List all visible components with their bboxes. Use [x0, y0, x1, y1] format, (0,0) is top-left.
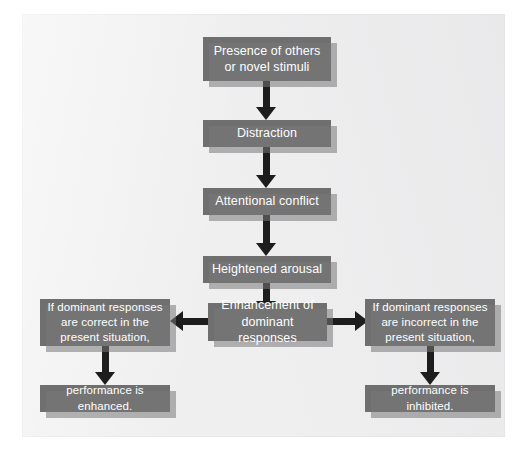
- node-heightened-arousal-label: Heightened arousal: [212, 261, 322, 278]
- node-presence-line2: or novel stimuli: [225, 59, 310, 76]
- edge-conflict-to-arousal-arrowhead: [256, 243, 276, 256]
- node-right-outcome-label: performance is inhibited.: [371, 383, 489, 413]
- node-left-condition-line2: are correct in the: [61, 315, 149, 330]
- node-distraction-label: Distraction: [237, 125, 297, 142]
- node-attentional-conflict-label: Attentional conflict: [215, 193, 318, 210]
- node-presence-line1: Presence of others: [214, 43, 321, 60]
- edge-distraction-to-conflict-arrowhead: [256, 175, 276, 188]
- node-left-condition-correct: If dominant responses are correct in the…: [40, 299, 170, 346]
- node-left-condition-line1: If dominant responses: [47, 300, 162, 315]
- node-right-condition-line1: If dominant responses: [372, 300, 487, 315]
- figure-canvas: Presence of others or novel stimuli Dist…: [0, 0, 523, 454]
- node-right-condition-line3: present situation,: [385, 330, 474, 345]
- node-distraction: Distraction: [203, 120, 331, 147]
- figure-panel: Presence of others or novel stimuli Dist…: [22, 14, 505, 437]
- node-heightened-arousal: Heightened arousal: [203, 256, 331, 283]
- node-right-condition-line2: are incorrect in the: [381, 315, 478, 330]
- node-presence-of-others: Presence of others or novel stimuli: [203, 37, 331, 81]
- node-attentional-conflict: Attentional conflict: [203, 188, 331, 215]
- node-right-condition-incorrect: If dominant responses are incorrect in t…: [365, 299, 495, 346]
- node-enhancement-line1: Enhancement of: [221, 297, 313, 314]
- node-left-outcome-label: performance is enhanced.: [46, 383, 164, 413]
- edge-presence-to-distraction-arrowhead: [256, 107, 276, 120]
- node-enhancement-line2: dominant responses: [214, 314, 321, 347]
- node-left-condition-line3: present situation,: [60, 330, 149, 345]
- node-enhancement-of-dominant-responses: Enhancement of dominant responses: [208, 303, 327, 341]
- node-left-outcome-performance-enhanced: performance is enhanced.: [40, 385, 170, 412]
- node-right-outcome-performance-inhibited: performance is inhibited.: [365, 385, 495, 412]
